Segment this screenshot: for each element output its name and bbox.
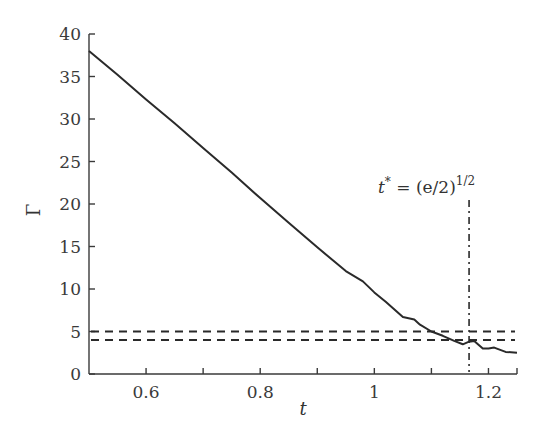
x-tick-label: 0.8: [247, 382, 274, 402]
x-tick-label: 0.6: [133, 382, 160, 402]
y-tick-label: 30: [59, 109, 81, 129]
y-tick-label: 5: [70, 322, 81, 342]
t-star-annotation: t* = (e/2)1/2: [378, 174, 475, 197]
x-tick-label: 1: [369, 382, 380, 402]
annot-exp: 1/2: [456, 174, 475, 188]
x-tick-labels: 0.60.811.2: [133, 382, 502, 402]
gamma-curve: [89, 51, 517, 353]
y-tick-label: 15: [59, 237, 81, 257]
y-tick-labels: 0510152025303540: [59, 24, 81, 384]
y-tick-label: 35: [59, 67, 81, 87]
y-tick-label: 10: [59, 279, 81, 299]
x-tick-label: 1.2: [475, 382, 502, 402]
axes: [89, 34, 517, 374]
y-axis-label: Γ: [23, 204, 44, 217]
y-tick-label: 20: [59, 194, 81, 214]
reference-lines: [91, 200, 515, 372]
x-axis-label: t: [299, 398, 307, 419]
annot-eq: = (e/2): [391, 177, 456, 197]
series: [89, 51, 517, 353]
y-tick-label: 40: [59, 24, 81, 44]
y-tick-label: 25: [59, 152, 81, 172]
y-tick-label: 0: [70, 364, 81, 384]
chart: 0510152025303540 0.60.811.2 t Γ t* = (e/…: [0, 0, 548, 439]
